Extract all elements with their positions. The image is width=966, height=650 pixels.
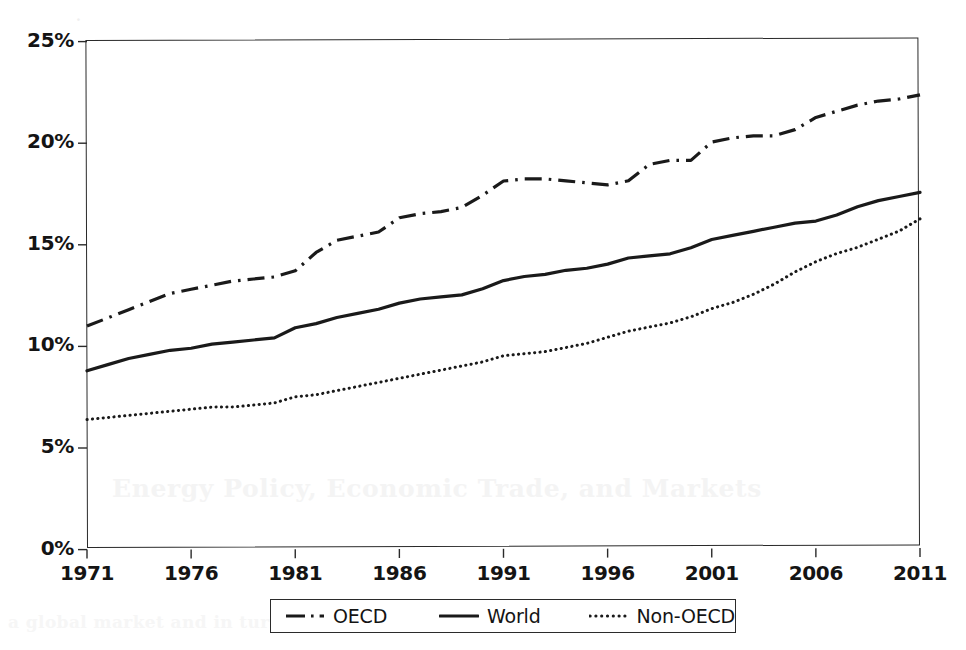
series-line-non-oecd bbox=[87, 219, 920, 420]
legend-item-world[interactable]: World bbox=[439, 600, 540, 632]
legend-key-dotted-icon bbox=[589, 609, 629, 623]
series-line-oecd bbox=[87, 95, 920, 326]
legend-key-dash-dot-icon bbox=[285, 609, 325, 623]
legend-item-label: Non-OECD bbox=[637, 605, 736, 627]
chart-series-layer bbox=[0, 0, 966, 650]
legend-item-label: World bbox=[487, 605, 540, 627]
legend-item-oecd[interactable]: OECD bbox=[285, 600, 387, 632]
chart-page: . Energy Policy, Economic Trade, and Mar… bbox=[0, 0, 966, 650]
chart-legend: OECDWorldNon-OECD bbox=[270, 599, 736, 633]
legend-item-non-oecd[interactable]: Non-OECD bbox=[589, 600, 736, 632]
series-line-world bbox=[87, 192, 920, 370]
legend-key-solid-icon bbox=[439, 609, 479, 623]
legend-item-label: OECD bbox=[333, 605, 387, 627]
